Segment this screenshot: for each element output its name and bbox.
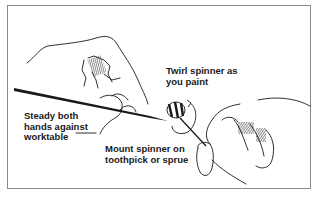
callout-steady-hands: Steady both hands against worktable (24, 111, 88, 143)
callout-twirl-spinner: Twirl spinner as you paint (166, 66, 238, 87)
toothpick (180, 118, 206, 146)
right-knuckle-shading-2 (256, 128, 266, 142)
illustration (0, 0, 319, 200)
hand-holding-toothpick-icon (197, 98, 310, 184)
right-knuckle-shading (238, 122, 254, 134)
knuckle-shading (87, 55, 106, 77)
callout-mount-spinner: Mount spinner on toothpick or sprue (105, 144, 188, 165)
striped-spinner-icon (167, 102, 185, 118)
